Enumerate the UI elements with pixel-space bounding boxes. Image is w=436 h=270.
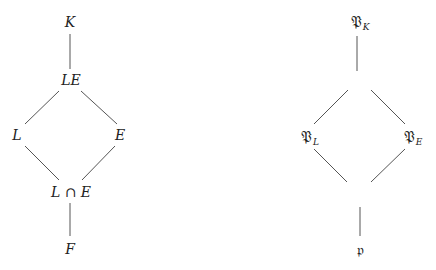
node-E: E xyxy=(115,128,125,142)
prime-P-symbol: 𝔓 xyxy=(351,13,362,31)
node-P-E: 𝔓E xyxy=(404,130,423,145)
edge-L-LcapE xyxy=(25,146,59,180)
edge-PL-lower xyxy=(314,149,347,182)
prime-P-symbol: 𝔓 xyxy=(301,128,312,146)
node-F: F xyxy=(65,242,75,256)
node-p: 𝔭 xyxy=(357,243,364,258)
edge-PE-lower xyxy=(371,149,405,182)
subscript-E: E xyxy=(416,137,423,147)
edge-upper-PL xyxy=(314,90,348,124)
node-P-L: 𝔓L xyxy=(301,130,319,145)
edge-LE-E xyxy=(81,91,117,124)
node-L-cap-E: L ∩ E xyxy=(51,185,91,199)
edge-LE-L xyxy=(25,91,59,124)
edge-E-LcapE xyxy=(82,146,115,180)
subscript-L: L xyxy=(313,137,319,147)
subscript-K: K xyxy=(363,22,370,32)
node-L: L xyxy=(12,128,21,142)
prime-P-symbol: 𝔓 xyxy=(404,128,415,146)
node-LE: LE xyxy=(61,73,81,87)
edge-upper-PE xyxy=(371,90,405,124)
prime-p-symbol: 𝔭 xyxy=(357,241,364,259)
node-P-K: 𝔓K xyxy=(351,15,370,30)
node-K: K xyxy=(65,15,75,29)
lattice-edges xyxy=(0,0,436,270)
